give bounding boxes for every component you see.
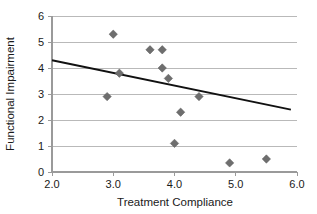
- scatter-chart: 2.03.04.05.06.0 0123456 Treatment Compli…: [0, 0, 317, 214]
- data-points: [103, 30, 271, 167]
- data-point-marker: [176, 108, 184, 116]
- x-tick-label: 5.0: [228, 178, 243, 190]
- y-tick-label: 2: [38, 114, 44, 126]
- axis-ticks: [48, 16, 297, 176]
- y-tick-label: 3: [38, 88, 44, 100]
- y-tick-label: 4: [38, 62, 44, 74]
- x-tick-labels: 2.03.04.05.06.0: [44, 178, 304, 190]
- y-tick-label: 1: [38, 140, 44, 152]
- y-tick-label: 6: [38, 10, 44, 22]
- data-point-marker: [158, 46, 166, 54]
- chart-canvas: 2.03.04.05.06.0 0123456 Treatment Compli…: [0, 0, 317, 214]
- data-point-marker: [158, 64, 166, 72]
- data-point-marker: [109, 30, 117, 38]
- data-point-marker: [225, 159, 233, 167]
- y-axis-title: Functional Impairment: [4, 36, 16, 151]
- x-tick-label: 4.0: [167, 178, 182, 190]
- gridlines: [52, 16, 297, 146]
- data-point-marker: [146, 46, 154, 54]
- data-point-marker: [164, 74, 172, 82]
- x-tick-label: 3.0: [106, 178, 121, 190]
- y-tick-label: 0: [38, 166, 44, 178]
- data-point-marker: [262, 155, 270, 163]
- x-axis-title: Treatment Compliance: [117, 196, 233, 208]
- y-tick-label: 5: [38, 36, 44, 48]
- y-tick-labels: 0123456: [38, 10, 44, 178]
- data-point-marker: [115, 69, 123, 77]
- x-tick-label: 6.0: [289, 178, 304, 190]
- x-tick-label: 2.0: [44, 178, 59, 190]
